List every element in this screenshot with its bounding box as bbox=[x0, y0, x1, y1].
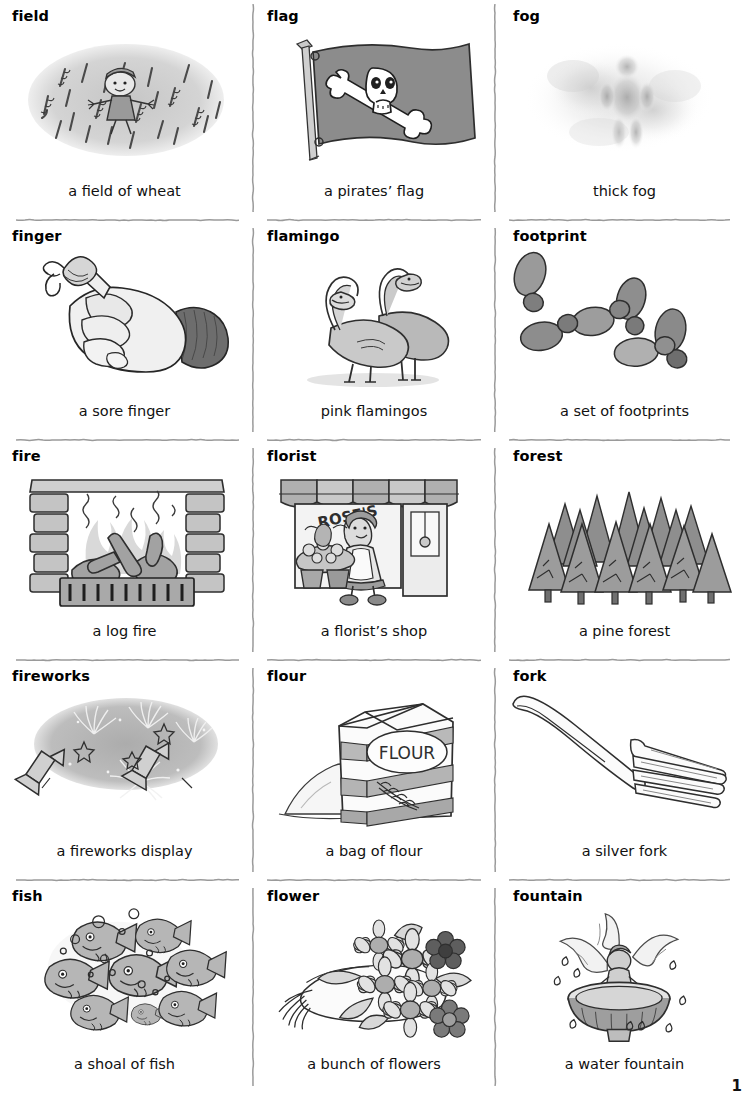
entry-cell-footprint[interactable]: footprint bbox=[495, 220, 744, 440]
flour-label-text: FLOUR bbox=[379, 743, 435, 763]
caption-florist: a florist’s shop bbox=[253, 623, 495, 639]
illustration-bag-of-flour: FLOUR bbox=[261, 686, 487, 836]
headword-fire: fire bbox=[12, 448, 41, 464]
illustration-thick-fog bbox=[503, 26, 736, 176]
caption-finger: a sore finger bbox=[0, 403, 253, 419]
caption-fish: a shoal of fish bbox=[0, 1056, 253, 1072]
headword-fountain: fountain bbox=[513, 888, 583, 904]
illustration-pine-forest bbox=[503, 466, 736, 616]
entry-grid: field bbox=[0, 0, 744, 1093]
entry-cell-finger[interactable]: finger bbox=[0, 220, 253, 440]
caption-fork: a silver fork bbox=[495, 843, 744, 859]
entry-cell-fog[interactable]: fog bbox=[495, 0, 744, 220]
entry-cell-flag[interactable]: flag bbox=[253, 0, 495, 220]
headword-fork: fork bbox=[513, 668, 546, 684]
entry-cell-florist[interactable]: florist bbox=[253, 440, 495, 660]
entry-cell-flower[interactable]: flower bbox=[253, 880, 495, 1093]
entry-cell-fireworks[interactable]: fireworks bbox=[0, 660, 253, 880]
illustration-shoal-of-fish bbox=[8, 906, 245, 1049]
illustration-sore-finger bbox=[8, 246, 245, 396]
entry-cell-fork[interactable]: fork a si bbox=[495, 660, 744, 880]
headword-flour: flour bbox=[267, 668, 306, 684]
entry-cell-forest[interactable]: forest bbox=[495, 440, 744, 660]
headword-florist: florist bbox=[267, 448, 317, 464]
illustration-water-fountain bbox=[503, 906, 736, 1049]
headword-forest: forest bbox=[513, 448, 562, 464]
entry-cell-fish[interactable]: fish bbox=[0, 880, 253, 1093]
headword-fog: fog bbox=[513, 8, 540, 24]
headword-flamingo: flamingo bbox=[267, 228, 340, 244]
caption-fountain: a water fountain bbox=[495, 1056, 744, 1072]
headword-footprint: footprint bbox=[513, 228, 587, 244]
illustration-florist-shop: ROSE'S bbox=[261, 466, 487, 616]
entry-cell-flamingo[interactable]: flamingo bbox=[253, 220, 495, 440]
caption-flour: a bag of flour bbox=[253, 843, 495, 859]
caption-flamingo: pink flamingos bbox=[253, 403, 495, 419]
illustration-flamingos bbox=[261, 246, 487, 396]
caption-fog: thick fog bbox=[495, 183, 744, 199]
headword-flag: flag bbox=[267, 8, 299, 24]
entry-cell-fire[interactable]: fire bbox=[0, 440, 253, 660]
caption-flag: a pirates’ flag bbox=[253, 183, 495, 199]
entry-cell-field[interactable]: field bbox=[0, 0, 253, 220]
headword-fish: fish bbox=[12, 888, 43, 904]
caption-footprint: a set of footprints bbox=[495, 403, 744, 419]
caption-flower: a bunch of flowers bbox=[253, 1056, 495, 1072]
dictionary-page: field bbox=[0, 0, 744, 1093]
caption-fireworks: a fireworks display bbox=[0, 843, 253, 859]
entry-cell-flour[interactable]: flour bbox=[253, 660, 495, 880]
illustration-silver-fork bbox=[503, 686, 736, 836]
caption-fire: a log fire bbox=[0, 623, 253, 639]
caption-field: a field of wheat bbox=[0, 183, 253, 199]
page-number: 1 bbox=[732, 1077, 742, 1093]
illustration-log-fire bbox=[8, 466, 245, 616]
illustration-bunch-of-flowers bbox=[261, 906, 487, 1049]
headword-field: field bbox=[12, 8, 49, 24]
illustration-pirate-flag bbox=[261, 26, 487, 176]
headword-flower: flower bbox=[267, 888, 319, 904]
headword-finger: finger bbox=[12, 228, 62, 244]
headword-fireworks: fireworks bbox=[12, 668, 90, 684]
entry-cell-fountain[interactable]: fountain bbox=[495, 880, 744, 1093]
caption-forest: a pine forest bbox=[495, 623, 744, 639]
illustration-field-of-wheat bbox=[8, 26, 245, 176]
illustration-footprints bbox=[503, 246, 736, 396]
illustration-fireworks-display bbox=[8, 686, 245, 836]
